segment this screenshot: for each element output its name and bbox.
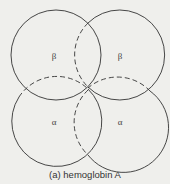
alpha-subunit-bottom-right [88,91,169,172]
alpha-label-bottom-left: α [52,117,57,127]
alpha-subunit-bottom-left-hidden [19,76,88,97]
hemoglobin-subunit-diagram: β β α α [0,0,170,184]
alpha-subunit-bottom-right-hidden-left [74,90,88,155]
beta-subunit-top-right [88,10,165,100]
alpha-subunit-bottom-right-hidden [88,77,150,91]
beta-label-top-right: β [118,51,123,61]
alpha-label-bottom-right: α [118,117,123,127]
figure-caption: (a) hemoglobin A [0,169,170,180]
beta-subunit-top-right-hidden [75,23,88,87]
beta-label-top-left: β [52,51,57,61]
